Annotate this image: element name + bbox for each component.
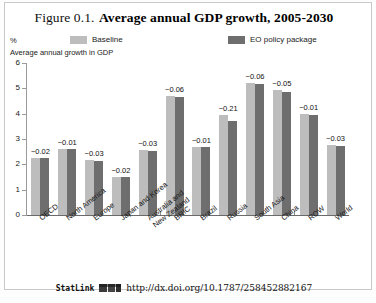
y-axis-tick-label: 5	[16, 84, 20, 92]
legend-item-baseline: Baseline	[70, 35, 123, 44]
bar	[67, 149, 76, 215]
y-axis-tick-label: 3	[16, 135, 20, 143]
bar	[255, 84, 264, 215]
legend-swatch-baseline	[70, 36, 87, 44]
bar-group: −0.01	[54, 63, 81, 215]
plot-area: 0123456 −0.02−0.01−0.03−0.02−0.03−0.06−0…	[27, 63, 349, 215]
bar-value-label: −0.03	[326, 134, 345, 143]
figure-title-text: Average annual GDP growth, 2005-2030	[99, 10, 333, 25]
bar	[58, 149, 67, 215]
bar	[300, 114, 309, 215]
x-axis-category-labels: OECDNorth AmericaEuropeJapan and KoreaAu…	[27, 216, 349, 272]
y-axis-tick-label: 6	[16, 59, 20, 67]
bar-value-label: −0.01	[299, 103, 318, 112]
bar-value-label: −0.06	[246, 72, 265, 81]
bar	[31, 158, 40, 215]
statlink-label: StatLink	[56, 284, 95, 293]
figure-title: Figure 0.1. Average annual GDP growth, 2…	[0, 8, 368, 26]
legend-item-policy: EO policy package	[228, 35, 317, 44]
bar	[148, 151, 157, 215]
legend-swatch-policy	[228, 36, 245, 44]
figure-container: Figure 0.1. Average annual GDP growth, 2…	[0, 0, 376, 303]
chart-subtitle: Average annual growth in GDP	[10, 48, 113, 57]
bar-group: −0.03	[322, 63, 349, 215]
bar-group: −0.02	[27, 63, 54, 215]
bar-value-label: −0.03	[85, 149, 104, 158]
bar	[309, 115, 318, 215]
y-axis-tick-label: 4	[16, 110, 20, 118]
statlink-row: StatLink http://dx.doi.org/10.1787/25845…	[0, 283, 368, 293]
chart-legend: Baseline EO policy package	[0, 35, 368, 47]
y-axis-tick-label: 0	[16, 211, 20, 219]
bar	[246, 83, 255, 215]
bar-value-label: −0.06	[165, 85, 184, 94]
bar-group: −0.01	[188, 63, 215, 215]
bar-value-label: −0.02	[31, 147, 50, 156]
bar-value-label: −0.01	[58, 138, 77, 147]
bar	[327, 145, 336, 215]
bar-value-label: −0.05	[272, 79, 291, 88]
bar-value-label: −0.01	[192, 136, 211, 145]
legend-label-policy: EO policy package	[250, 35, 317, 44]
bar-group: −0.05	[268, 63, 295, 215]
bar	[228, 121, 237, 215]
bar-value-label: −0.03	[138, 139, 157, 148]
y-axis-tick-label: 2	[16, 160, 20, 168]
bar	[219, 115, 228, 215]
statlink-url[interactable]: http://dx.doi.org/10.1787/258452882167	[126, 283, 312, 293]
y-axis-tick-label: 1	[16, 186, 20, 194]
bar-group: −0.02	[107, 63, 134, 215]
bar-series-container: −0.02−0.01−0.03−0.02−0.03−0.06−0.01−0.21…	[27, 63, 349, 215]
statlink-icon	[99, 284, 121, 292]
bar-value-label: −0.02	[111, 166, 130, 175]
bar	[201, 147, 210, 215]
bar	[336, 146, 345, 215]
bar	[192, 147, 201, 215]
bar-group: −0.06	[242, 63, 269, 215]
bar-value-label: −0.21	[219, 104, 238, 113]
legend-label-baseline: Baseline	[92, 35, 123, 44]
figure-number: Figure 0.1.	[35, 10, 95, 25]
bar-group: −0.01	[295, 63, 322, 215]
bar-group: −0.21	[215, 63, 242, 215]
